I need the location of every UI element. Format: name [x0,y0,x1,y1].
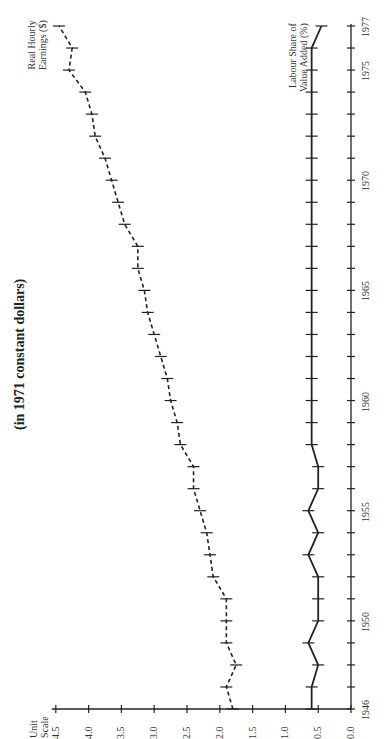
value-tick-label: 1.0 [279,727,290,739]
earnings-series-label: Real Hourly Earnings ($) [26,20,48,70]
year-tick-label: 1950 [360,612,371,632]
unit-scale-label: Unit Scale [28,716,50,738]
earnings-line [59,26,236,709]
value-tick-label: 2.0 [214,727,225,739]
earnings-label-line2: Earnings ($) [37,20,48,70]
year-tick-label: 1970 [360,171,371,191]
labour-line [308,26,321,709]
value-tick-label: 3.5 [115,727,126,739]
chart-title: (in 1971 constant dollars) [12,279,28,430]
year-tick-label: 1965 [360,281,371,301]
year-tick-label: 1975 [360,61,371,81]
year-tick-label: 1960 [360,392,371,412]
labour-label-line1: Labour Share of [287,23,298,92]
earnings-series [53,26,242,709]
value-tick-label: 4.5 [50,727,61,739]
axes [52,24,355,713]
labour-share-series [302,26,327,709]
value-tick-label: 0.5 [312,727,323,739]
value-tick-label: 4.0 [83,727,94,739]
value-tick-label: 1.5 [247,727,258,739]
value-tick-label: 2.5 [181,727,192,739]
labour-label-line2: Value Added (%) [298,23,309,92]
value-tick-label: 3.0 [148,727,159,739]
year-tick-label: 1977 [360,17,371,37]
unit-label-line2: Scale [39,716,50,738]
labour-share-series-label: Labour Share of Value Added (%) [287,23,309,92]
earnings-label-line1: Real Hourly [26,20,37,70]
year-tick-label: 1955 [360,502,371,522]
year-tick-label: 1946 [360,700,371,720]
value-tick-label: 0.0 [345,727,356,739]
unit-label-line1: Unit [28,716,39,738]
